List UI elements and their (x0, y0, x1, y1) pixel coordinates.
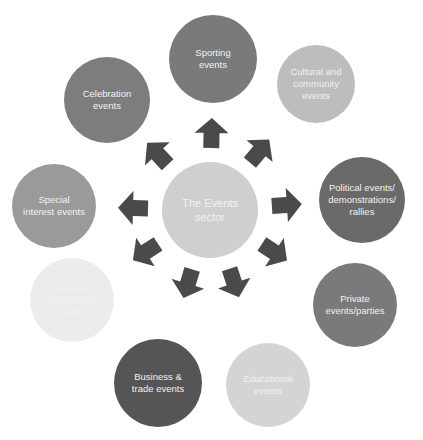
center-label: The Events sector (182, 196, 238, 224)
node-business-trade-events: Business & trade events (114, 339, 202, 427)
center-node-events-sector: The Events sector (162, 162, 258, 258)
node-label: Celebration events (83, 88, 132, 112)
node-label: Political events/ demonstrations/ rallie… (328, 182, 396, 218)
node-cultural-community-events: Cultural and community events (277, 45, 355, 123)
node-label: Sporting events (195, 47, 230, 71)
arrow-icon (167, 264, 208, 303)
arrow-icon (194, 118, 229, 149)
arrow-icon (118, 191, 149, 226)
node-label: Business & trade events (132, 371, 184, 395)
arrow-icon (271, 187, 303, 223)
node-label: Private events/parties (325, 293, 384, 317)
node-leisure-recreational-events: Leisure/ recreational events (30, 258, 114, 342)
arrow-icon (135, 131, 180, 176)
node-political-events: Political events/ demonstrations/ rallie… (319, 157, 405, 243)
node-celebration-events: Celebration events (64, 57, 150, 143)
arrow-icon (237, 129, 282, 174)
node-educational-events: Educational events (226, 343, 310, 427)
node-label: Leisure/ recreational events (47, 282, 97, 318)
node-label: Educational events (243, 373, 293, 397)
arrow-icon (213, 264, 255, 303)
node-label: Special interest events (23, 194, 85, 218)
node-label: Cultural and community events (290, 66, 341, 102)
arrow-icon (253, 230, 297, 275)
node-private-events: Private events/parties (313, 263, 397, 347)
node-sporting-events: Sporting events (169, 15, 257, 103)
node-special-interest-events: Special interest events (12, 164, 96, 248)
arrow-icon (124, 230, 168, 275)
